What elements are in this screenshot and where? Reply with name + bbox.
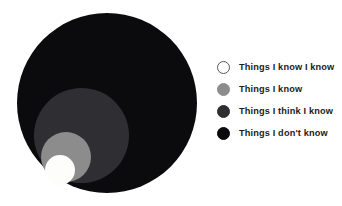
legend-label: Things I think I know <box>239 106 333 117</box>
swatch-things-i-know <box>217 83 230 96</box>
swatch-things-i-dont-know <box>217 127 230 140</box>
knowledge-circles-figure: Things I know I know Things I know Thing… <box>0 0 342 206</box>
legend-label: Things I know I know <box>239 62 334 73</box>
circle-things-i-know-i-know <box>45 155 75 185</box>
legend-item-things-i-dont-know[interactable]: Things I don't know <box>217 122 342 144</box>
legend: Things I know I know Things I know Thing… <box>217 56 342 144</box>
legend-label: Things I know <box>239 84 302 95</box>
legend-item-things-i-know[interactable]: Things I know <box>217 78 342 100</box>
legend-item-things-i-think-i-know[interactable]: Things I think I know <box>217 100 342 122</box>
nested-circles-diagram <box>0 0 215 206</box>
legend-item-things-i-know-i-know[interactable]: Things I know I know <box>217 56 342 78</box>
legend-label: Things I don't know <box>239 128 328 139</box>
swatch-things-i-know-i-know <box>217 61 230 74</box>
swatch-things-i-think-i-know <box>217 105 230 118</box>
